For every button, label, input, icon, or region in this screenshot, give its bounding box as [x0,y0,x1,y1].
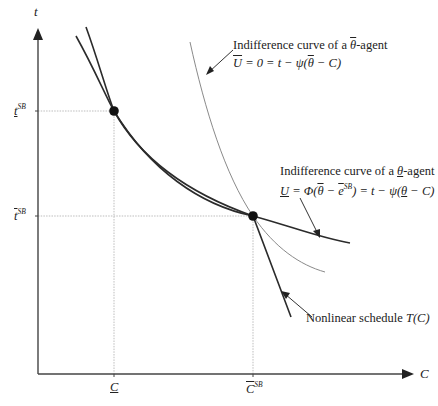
sb-superscript: SB [344,182,352,191]
sb-superscript: SB [254,380,262,389]
high-type-arrowhead-icon [206,66,214,75]
high-type-pointer-line [209,50,233,72]
diagram-canvas [0,0,438,406]
tick-label-t-sb-upper: tSB [14,102,26,119]
low-type-pointer-line [300,198,318,234]
tick-label-c-lower: C [110,380,118,395]
high-type-indifference-curve [190,42,325,272]
x-axis-arrow-icon [402,369,414,379]
sb-superscript: SB [17,207,25,216]
title-suffix: -agent [403,164,434,178]
eq-part: ) = t − ψ( [352,184,401,198]
tick-label-t-sb-lower: tSB [14,207,26,224]
tick-label-c-sb: CSB [246,380,263,397]
y-axis-label: t [34,4,38,20]
u-under-symbol: U [280,184,289,198]
optimal-point-high-type [248,211,258,221]
title-suffix: -agent [356,38,387,52]
schedule-text: Nonlinear schedule [306,311,406,325]
eq-middle: = 0 = t − ψ( [242,56,308,70]
c-symbol: C [110,380,118,394]
x-axis-label: C [420,366,429,382]
schedule-annotation: Nonlinear schedule T(C) [306,311,430,326]
y-axis-arrow-icon [33,28,43,40]
title-prefix: Indifference curve of a [280,164,397,178]
sb-superscript: SB [17,102,25,111]
schedule-symbol: T(C) [406,311,430,325]
eq-part: − [324,184,339,198]
eq-end: − C) [407,184,434,198]
low-type-annotation-title: Indifference curve of a θ-agent [280,164,434,179]
eq-part: = Φ( [289,184,317,198]
optimal-point-low-type [109,106,119,116]
low-type-annotation-equation: U = Φ(θ − eSB) = t − ψ(θ − C) [280,182,434,199]
high-type-annotation-equation: U = 0 = t − ψ(θ − C) [233,56,341,71]
title-prefix: Indifference curve of a [233,38,350,52]
u-bar-symbol: U [233,56,242,70]
high-type-annotation-title: Indifference curve of a θ-agent [233,38,387,53]
eq-end: − C) [314,56,341,70]
